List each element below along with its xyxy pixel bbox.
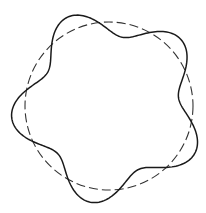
diagram-canvas	[0, 0, 206, 213]
wavy-closed-curve	[12, 15, 198, 202]
dashed-reference-circle	[25, 22, 193, 190]
